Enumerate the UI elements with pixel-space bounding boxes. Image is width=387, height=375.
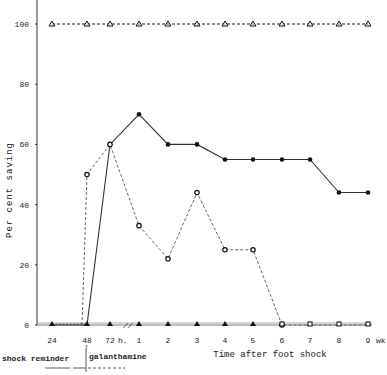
data-point-filled-circle bbox=[308, 157, 313, 162]
x-tick-label: 3 bbox=[195, 336, 200, 345]
axes: 020406080100//244872h.123456789wk bbox=[15, 0, 386, 345]
y-tick-label: 40 bbox=[19, 201, 29, 210]
x-tick-label: 1 bbox=[137, 336, 142, 345]
data-point-open-circle bbox=[195, 190, 199, 194]
data-point-filled-circle bbox=[195, 142, 200, 147]
data-point-open-triangle bbox=[136, 21, 142, 26]
data-point-open-triangle bbox=[336, 21, 342, 26]
data-point-filled-circle bbox=[137, 112, 142, 117]
data-point-open-triangle bbox=[365, 21, 371, 26]
data-point-open-circle bbox=[85, 172, 89, 176]
annotation-galanthamine: galanthamine bbox=[89, 352, 147, 361]
data-point-filled-triangle bbox=[250, 321, 256, 326]
chart: 020406080100//244872h.123456789wk Per ce… bbox=[0, 0, 387, 375]
data-point-open-circle bbox=[108, 142, 112, 146]
data-point-open-circle bbox=[223, 248, 227, 252]
annotation-shock-reminder: shock reminder bbox=[2, 354, 69, 363]
data-point-open-triangle bbox=[250, 21, 256, 26]
svg-text:Per cent saving: Per cent saving bbox=[5, 142, 15, 238]
data-point-open-circle bbox=[251, 248, 255, 252]
x-tick-label: 9 bbox=[366, 336, 371, 345]
data-point-filled-circle bbox=[251, 157, 256, 162]
data-point-filled-triangle bbox=[165, 321, 171, 326]
data-point-open-triangle bbox=[307, 21, 313, 26]
data-point-open-triangle bbox=[222, 21, 228, 26]
data-point-filled-triangle bbox=[222, 321, 228, 326]
data-point-open-triangle bbox=[194, 21, 200, 26]
y-tick-label: 100 bbox=[15, 20, 30, 29]
series-line-open-circle-dashed bbox=[82, 144, 368, 325]
x-unit-label: h. bbox=[118, 336, 128, 345]
data-point-filled-triangle bbox=[194, 321, 200, 326]
data-point-filled-circle bbox=[223, 157, 228, 162]
x-tick-label: 4 bbox=[223, 336, 228, 345]
data-point-open-triangle bbox=[165, 21, 171, 26]
y-tick-label: 20 bbox=[19, 261, 29, 270]
data-point-open-circle bbox=[137, 223, 141, 227]
y-axis-label: Per cent saving bbox=[5, 142, 15, 238]
data-point-open-marker bbox=[308, 322, 312, 326]
data-point-open-triangle bbox=[84, 21, 90, 26]
x-tick-label: 2 bbox=[166, 336, 171, 345]
x-tick-label: 72 bbox=[105, 336, 115, 345]
x-tick-label: 6 bbox=[280, 336, 285, 345]
y-tick-label: 60 bbox=[19, 140, 29, 149]
data-point-filled-circle bbox=[337, 190, 342, 195]
x-tick-label: 7 bbox=[308, 336, 313, 345]
x-unit-label: wk bbox=[376, 336, 386, 345]
data-point-open-triangle bbox=[107, 21, 113, 26]
data-point-open-circle bbox=[166, 257, 170, 261]
data-point-open-marker bbox=[337, 322, 341, 326]
data-point-filled-triangle bbox=[136, 321, 142, 326]
x-tick-label: 24 bbox=[47, 336, 57, 345]
data-point-filled-circle bbox=[280, 157, 285, 162]
data-point-filled-circle bbox=[366, 190, 371, 195]
arrow-icon: ↑ bbox=[84, 343, 89, 352]
x-tick-label: 5 bbox=[251, 336, 256, 345]
data-point-open-marker bbox=[280, 322, 284, 326]
series-group bbox=[49, 21, 371, 327]
data-point-open-marker bbox=[366, 322, 370, 326]
data-point-filled-triangle bbox=[49, 321, 55, 326]
x-axis-label: Time after foot shock bbox=[213, 350, 326, 360]
y-tick-label: 0 bbox=[24, 321, 29, 330]
data-point-filled-triangle bbox=[84, 321, 90, 326]
x-tick-label: 8 bbox=[337, 336, 342, 345]
y-tick-label: 80 bbox=[19, 80, 29, 89]
data-point-open-triangle bbox=[279, 21, 285, 26]
data-point-filled-triangle bbox=[107, 321, 113, 326]
data-point-filled-circle bbox=[166, 142, 171, 147]
data-point-open-triangle bbox=[49, 21, 55, 26]
axis-break-mark: // bbox=[123, 321, 134, 330]
